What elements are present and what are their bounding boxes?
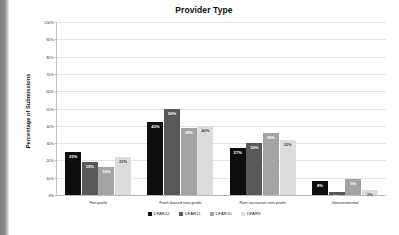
y-axis-tick-mark (55, 195, 57, 196)
legend-swatch-icon (148, 212, 152, 216)
bar-value-label: 3% (362, 193, 378, 197)
bar[interactable]: 39% (181, 128, 197, 195)
y-axis-tick-label: 20% (46, 158, 54, 163)
bar[interactable]: 22% (115, 157, 131, 195)
legend-item[interactable]: DFAR12 (148, 211, 170, 216)
y-axis-tick-label: 50% (46, 106, 54, 111)
bar-value-label: 16% (98, 170, 114, 174)
x-axis-category-label: Faith-based non-profit (139, 200, 221, 205)
legend-swatch-icon (241, 212, 245, 216)
legend-item[interactable]: DFAR9 (241, 211, 261, 216)
y-axis-title: Percentage of Submissions (25, 56, 31, 166)
legend-swatch-icon (179, 212, 183, 216)
x-axis-category-label: Governmental (304, 200, 386, 205)
legend-label: DFAR11 (185, 211, 201, 216)
bar[interactable]: 3% (362, 190, 378, 195)
bar[interactable]: 36% (263, 133, 279, 195)
bar[interactable]: 27% (230, 148, 246, 195)
chart-canvas: Provider Type Percentage of Submissions … (9, 0, 399, 235)
bar[interactable]: 9% (345, 179, 361, 195)
chart-legend: DFAR12DFAR11DFAR10DFAR9 (9, 211, 399, 216)
y-axis-tick-label: 10% (46, 175, 54, 180)
bar-value-label: 30% (246, 146, 262, 150)
bar[interactable]: 16% (98, 167, 114, 195)
bar-value-label: 25% (65, 155, 81, 159)
page-scan-edge (0, 0, 9, 235)
bar[interactable]: 30% (246, 143, 262, 195)
y-axis-tick-label: 40% (46, 123, 54, 128)
x-axis-category-label: Non-sectarian non-profit (222, 200, 304, 205)
bar[interactable]: 25% (65, 152, 81, 195)
bar-group: 8%2%9%3%Governmental (304, 22, 386, 195)
bar[interactable]: 42% (147, 122, 163, 195)
bar[interactable]: 40% (197, 126, 213, 195)
bar-group: 25%19%16%22%For-profit (57, 22, 139, 195)
y-axis-tick-label: 80% (46, 54, 54, 59)
bar-value-label: 19% (82, 165, 98, 169)
bar-value-label: 40% (197, 129, 213, 133)
bar-value-label: 50% (164, 112, 180, 116)
bar-value-label: 27% (230, 151, 246, 155)
bar-value-label: 2% (329, 195, 345, 199)
y-axis-tick-label: 90% (46, 37, 54, 42)
bar[interactable]: 8% (312, 181, 328, 195)
legend-label: DFAR12 (154, 211, 170, 216)
bar[interactable]: 19% (82, 162, 98, 195)
bar-value-label: 8% (312, 184, 328, 188)
bar-value-label: 42% (147, 125, 163, 129)
bar[interactable]: 32% (280, 140, 296, 195)
y-axis-tick-label: 60% (46, 89, 54, 94)
y-axis-tick-label: 0% (48, 193, 54, 198)
bar-group: 42%50%39%40%Faith-based non-profit (139, 22, 221, 195)
bar-value-label: 9% (345, 182, 361, 186)
bar-value-label: 22% (115, 160, 131, 164)
legend-label: DFAR9 (247, 211, 261, 216)
bar[interactable]: 50% (164, 109, 180, 196)
legend-item[interactable]: DFAR10 (210, 211, 232, 216)
bar-group: 27%30%36%32%Non-sectarian non-profit (222, 22, 304, 195)
y-axis-tick-label: 100% (44, 20, 54, 25)
legend-item[interactable]: DFAR11 (179, 211, 201, 216)
legend-swatch-icon (210, 212, 214, 216)
bar-value-label: 39% (181, 131, 197, 135)
y-axis-tick-label: 30% (46, 141, 54, 146)
bar-value-label: 36% (263, 136, 279, 140)
plot-area: 0%10%20%30%40%50%60%70%80%90%100%25%19%1… (56, 22, 386, 196)
y-axis-tick-label: 70% (46, 71, 54, 76)
bar[interactable]: 2% (329, 192, 345, 195)
x-axis-category-label: For-profit (57, 200, 139, 205)
legend-label: DFAR10 (216, 211, 232, 216)
chart-title: Provider Type (9, 5, 399, 15)
bar-value-label: 32% (280, 143, 296, 147)
